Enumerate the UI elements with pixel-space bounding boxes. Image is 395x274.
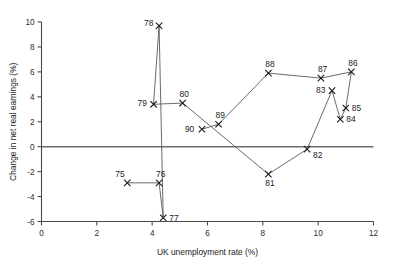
data-point[interactable] [337,116,343,122]
tick-labels-group: -6-4-20246810024681012 [25,18,378,238]
y-axis-tick-label: -6 [27,218,35,227]
data-point-label: 87 [318,64,328,74]
scatter-plot-canvas: 75767778798081828384858687888990 -6-4-20… [0,0,395,274]
y-axis-tick-label: 6 [30,68,35,77]
data-point-label: 84 [346,114,356,124]
y-axis-tick-label: 4 [30,93,35,102]
x-axis-tick-label: 12 [369,229,379,238]
data-point-label: 80 [180,89,190,99]
y-axis-tick-label: -4 [27,193,35,202]
y-axis-tick-label: 8 [30,43,35,52]
chart-figure: 75767778798081828384858687888990 -6-4-20… [0,0,395,274]
series-connector-line [127,26,351,218]
axis-frame [42,22,374,222]
x-axis-title: UK unemployment rate (%) [157,247,258,257]
data-point-label: 90 [185,124,195,134]
axes-group [38,22,374,226]
data-point-label: 75 [115,169,125,179]
y-axis-tick-label: 0 [30,143,35,152]
data-point-label: 79 [138,98,148,108]
data-point[interactable] [265,171,271,177]
x-axis-tick-label: 6 [205,229,210,238]
x-axis-tick-label: 0 [39,229,44,238]
x-axis-tick-label: 4 [150,229,155,238]
data-markers-group [124,23,355,221]
y-axis-tick-label: -2 [27,168,35,177]
data-point-label: 86 [348,58,358,68]
point-labels-group: 75767778798081828384858687888990 [115,18,361,223]
x-axis-tick-label: 2 [95,229,100,238]
data-point-label: 82 [313,150,323,160]
data-point[interactable] [329,87,335,93]
data-point-label: 89 [216,110,226,120]
y-axis-title: Change in net real earnings (%) [8,62,18,180]
data-point-label: 78 [144,18,154,28]
data-point[interactable] [215,121,221,127]
data-point-label: 81 [265,178,275,188]
y-axis-tick-label: 10 [25,18,35,27]
data-point-label: 88 [265,59,275,69]
data-point-label: 85 [352,103,362,113]
data-point-label: 83 [316,85,326,95]
data-point-label: 77 [169,213,179,223]
x-axis-tick-label: 8 [261,229,266,238]
axis-titles-group: UK unemployment rate (%)Change in net re… [8,62,258,256]
series-path-group [127,26,351,218]
y-axis-tick-label: 2 [30,118,35,127]
x-axis-tick-label: 10 [314,229,324,238]
data-point-label: 76 [156,169,166,179]
data-point[interactable] [199,126,205,132]
